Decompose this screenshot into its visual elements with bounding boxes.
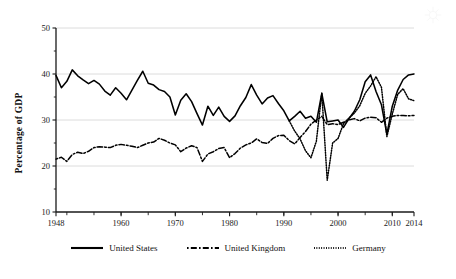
svg-text:50: 50 bbox=[42, 23, 51, 33]
data-series-group bbox=[56, 70, 414, 180]
legend-swatch-dotted-icon bbox=[313, 243, 347, 253]
chart-container: Percentage of GDP 1020304050 19481960197… bbox=[0, 0, 456, 279]
svg-text:2010: 2010 bbox=[384, 218, 401, 228]
svg-text:1980: 1980 bbox=[221, 218, 238, 228]
legend-swatch-solid-icon bbox=[70, 243, 104, 253]
series-line-united-kingdom bbox=[56, 115, 414, 161]
legend-item-united-kingdom[interactable]: United Kingdom bbox=[186, 243, 286, 253]
svg-text:40: 40 bbox=[42, 69, 51, 79]
svg-text:1970: 1970 bbox=[167, 218, 184, 228]
svg-text:10: 10 bbox=[42, 207, 51, 217]
legend-label-united-kingdom: United Kingdom bbox=[225, 243, 286, 253]
svg-text:2000: 2000 bbox=[330, 218, 347, 228]
svg-text:30: 30 bbox=[42, 115, 51, 125]
svg-text:2014: 2014 bbox=[406, 218, 424, 228]
chart-legend: United States United Kingdom Germany bbox=[0, 243, 456, 253]
legend-label-germany: Germany bbox=[352, 243, 386, 253]
legend-item-germany[interactable]: Germany bbox=[313, 243, 386, 253]
watermark-icon bbox=[424, 6, 442, 24]
y-axis-ticks: 1020304050 bbox=[42, 23, 57, 217]
svg-text:20: 20 bbox=[42, 161, 51, 171]
chart-plot-area: 1020304050 19481960197019801990200020102… bbox=[0, 0, 456, 279]
svg-text:1990: 1990 bbox=[275, 218, 292, 228]
svg-text:1948: 1948 bbox=[48, 218, 65, 228]
legend-label-united-states: United States bbox=[109, 243, 157, 253]
svg-text:1960: 1960 bbox=[113, 218, 130, 228]
series-line-united-states bbox=[56, 70, 414, 134]
x-axis-ticks: 19481960197019801990200020102014 bbox=[48, 212, 424, 228]
legend-swatch-dashdot-icon bbox=[186, 243, 220, 253]
legend-item-united-states[interactable]: United States bbox=[70, 243, 157, 253]
